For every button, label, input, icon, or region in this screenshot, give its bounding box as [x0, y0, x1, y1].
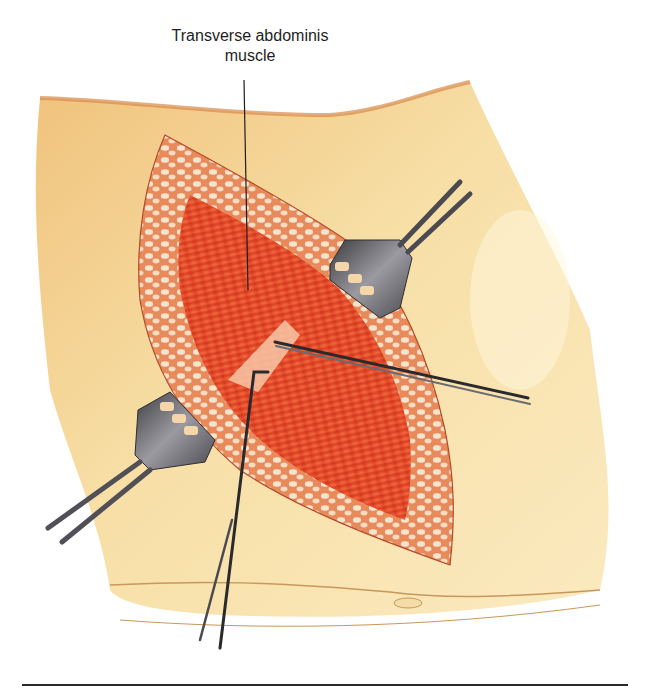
- bottom-divider: [22, 684, 628, 686]
- surgical-illustration: [0, 0, 647, 690]
